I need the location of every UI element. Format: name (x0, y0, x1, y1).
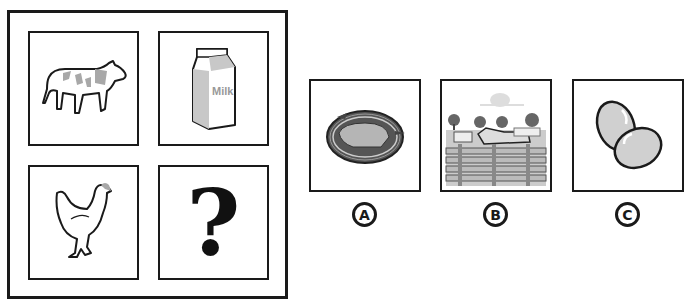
milk-carton-icon: Milk (189, 47, 239, 131)
cow-icon (39, 59, 129, 119)
option-b-label[interactable]: B (483, 202, 508, 227)
eggs-icon (588, 96, 668, 176)
farm-field-icon (444, 84, 548, 188)
grid-cell-hen (28, 165, 139, 280)
question-mark-icon: ? (187, 177, 241, 269)
svg-text:Milk: Milk (212, 85, 234, 97)
grid-cell-milk: Milk (158, 31, 269, 146)
grid-cell-unknown: ? (158, 165, 269, 280)
option-b-image[interactable] (440, 79, 552, 192)
option-c-image[interactable] (572, 79, 684, 192)
option-a-label[interactable]: A (352, 202, 377, 227)
option-a-image[interactable] (309, 79, 421, 192)
nest-icon (323, 103, 407, 169)
option-c-label[interactable]: C (615, 202, 640, 227)
grid-cell-cow (28, 31, 139, 146)
hen-icon (53, 179, 115, 267)
